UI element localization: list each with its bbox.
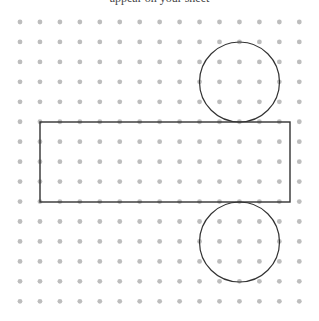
grid-dot (38, 20, 43, 25)
grid-dot (58, 40, 63, 45)
grid-dot (137, 60, 142, 65)
grid-dot (177, 79, 182, 84)
grid-dot (217, 239, 222, 244)
grid-dot (137, 299, 142, 304)
grid-dot (137, 279, 142, 284)
grid-dot (117, 259, 122, 264)
grid-dot (18, 179, 23, 184)
grid-dot (117, 279, 122, 284)
grid-dot (77, 299, 82, 304)
grid-dot (237, 179, 242, 184)
grid-dot (237, 20, 242, 25)
grid-dot (177, 40, 182, 45)
grid-dot (38, 279, 43, 284)
grid-dot (217, 20, 222, 25)
grid-dot (18, 60, 23, 65)
grid-dot (277, 99, 282, 104)
grid-dot (97, 139, 102, 144)
grid-dot (18, 259, 23, 264)
grid-dot (77, 239, 82, 244)
grid-dot (217, 299, 222, 304)
grid-dot (257, 139, 262, 144)
grid-dot (277, 279, 282, 284)
grid-dot (237, 79, 242, 84)
grid-dot (18, 199, 23, 204)
grid-dot (157, 79, 162, 84)
grid-dot (277, 299, 282, 304)
grid-dot (157, 20, 162, 25)
grid-dot (97, 279, 102, 284)
grid-dot (257, 40, 262, 45)
grid-dot (237, 279, 242, 284)
grid-dot (18, 79, 23, 84)
grid-dot (237, 60, 242, 65)
grid-dot (117, 179, 122, 184)
grid-dot (97, 159, 102, 164)
grid-dot (38, 79, 43, 84)
grid-dot (297, 159, 302, 164)
grid-dot (137, 20, 142, 25)
grid-dot (257, 259, 262, 264)
grid-dot (58, 259, 63, 264)
grid-dot (97, 99, 102, 104)
grid-dot (157, 60, 162, 65)
grid-dot (297, 139, 302, 144)
grid-dot (117, 139, 122, 144)
grid-dot (217, 60, 222, 65)
grid-dot (38, 239, 43, 244)
grid-dot (197, 139, 202, 144)
grid-dot (18, 239, 23, 244)
grid-dot (197, 20, 202, 25)
grid-dot (58, 99, 63, 104)
grid-dot (97, 239, 102, 244)
grid-dot (38, 99, 43, 104)
grid-dot (177, 139, 182, 144)
grid-dot (137, 139, 142, 144)
grid-dot (77, 259, 82, 264)
grid-dot (257, 99, 262, 104)
grid-dot (18, 299, 23, 304)
grid-dot (177, 99, 182, 104)
grid-dot (97, 179, 102, 184)
grid-dot (58, 139, 63, 144)
grid-dot (77, 279, 82, 284)
grid-dot (117, 239, 122, 244)
grid-dot (277, 40, 282, 45)
grid-dot (97, 60, 102, 65)
grid-dot (217, 259, 222, 264)
grid-dot (177, 60, 182, 65)
grid-dot (277, 139, 282, 144)
grid-dot (297, 179, 302, 184)
grid-dot (217, 159, 222, 164)
grid-dot (297, 119, 302, 124)
grid-dot (297, 79, 302, 84)
grid-dot (217, 40, 222, 45)
grid-dot (18, 159, 23, 164)
grid-dot (18, 40, 23, 45)
grid-dot (177, 219, 182, 224)
grid-dot (137, 179, 142, 184)
grid-dot (237, 99, 242, 104)
grid-dot (97, 219, 102, 224)
grid-dot (197, 219, 202, 224)
grid-dot (38, 259, 43, 264)
grid-dot (38, 219, 43, 224)
grid-dot (77, 20, 82, 25)
grid-dot (77, 40, 82, 45)
grid-dot (117, 60, 122, 65)
grid-dot (157, 139, 162, 144)
grid-dot (117, 79, 122, 84)
grid-dot (97, 40, 102, 45)
grid-dot (58, 20, 63, 25)
grid-dot (237, 159, 242, 164)
grid-dot (237, 299, 242, 304)
grid-dot (157, 299, 162, 304)
grid-dot (217, 139, 222, 144)
grid-dot (197, 279, 202, 284)
grid-dot (18, 219, 23, 224)
grid-dot (217, 179, 222, 184)
grid-dot (177, 239, 182, 244)
grid-dot (97, 79, 102, 84)
grid-dot (177, 259, 182, 264)
grid-dot (177, 159, 182, 164)
